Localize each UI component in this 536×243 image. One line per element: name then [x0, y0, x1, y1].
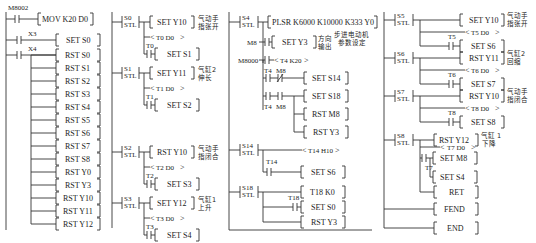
- compare-close: >: [495, 28, 500, 37]
- column-4: S5 STL SET Y10 气动手 指张开 < T5 D0 > T5 SET …: [384, 11, 528, 234]
- instruction: END: [447, 224, 464, 233]
- instruction: RET: [449, 188, 464, 197]
- rung-mov: M8002 MOV K20 D0: [6, 4, 93, 25]
- instruction: SET Y10: [469, 16, 499, 25]
- comment: 气缸2: [507, 49, 525, 58]
- instruction: SET Y3: [282, 38, 308, 47]
- rung-reset-all: X4: [6, 45, 56, 224]
- rung-fend: FEND: [384, 203, 478, 215]
- comment: 指张开: [507, 19, 528, 28]
- comment: 气动手: [507, 87, 528, 96]
- contact-label: T18: [288, 194, 300, 202]
- instruction: SET S1: [167, 50, 192, 59]
- instruction: SET S4: [167, 231, 192, 240]
- stl-label: STL: [397, 57, 409, 65]
- instruction: RST Y11: [469, 54, 499, 63]
- stl-label: STL: [397, 95, 409, 103]
- rung-end: END: [384, 222, 478, 234]
- timer-instruction: T3 D0: [156, 215, 175, 223]
- compare-open: <: [150, 214, 155, 223]
- instruction: SET S8: [471, 118, 496, 127]
- comment: 气缸1: [198, 195, 216, 204]
- contact-label: M8000: [238, 57, 259, 65]
- instruction: RST Y3: [311, 218, 337, 227]
- step-s1: S1 STL SET Y11 气缸2 伸长 < T1 D0 > T1 SET S…: [112, 65, 216, 111]
- instruction: RST Y10: [63, 194, 93, 203]
- step-s7: S7 STL RST Y10 气动手 指闭合 < T8 D0 > T8 SET …: [384, 87, 528, 128]
- stl-label: STL: [124, 151, 136, 159]
- compare-open: <: [150, 33, 155, 42]
- comment: 输出: [318, 42, 332, 51]
- compare-open: <: [465, 28, 470, 37]
- comment: 气缸2: [198, 65, 216, 74]
- plsr-instruction: PLSR K6000 K10000 K333 Y0: [272, 18, 374, 27]
- timer-instruction: T0 D0: [156, 34, 175, 42]
- step-s14: S14 STL < T14 H10 > T14 SET S6: [229, 142, 345, 178]
- compare-open: <: [302, 146, 307, 155]
- stl-label: STL: [397, 139, 409, 147]
- comment: 气动手: [507, 11, 528, 20]
- instruction: SET S2: [167, 101, 192, 110]
- comment: 步进电动机: [334, 30, 369, 39]
- instruction: RST S0: [65, 51, 90, 60]
- stl-label: STL: [124, 21, 136, 29]
- stl-label: STL: [124, 202, 136, 210]
- contact-label: T3: [146, 223, 154, 231]
- timer-instruction: T7 D0: [447, 144, 466, 152]
- step-s4: S4 STL PLSR K6000 K10000 K333 Y0 M8 SET …: [229, 14, 377, 138]
- instruction: SET S6: [471, 42, 496, 51]
- step-s2: S2 STL RST Y10 气动手 指闭合 < T2 D0 > T2 SET …: [112, 144, 219, 190]
- instruction: SET Y11: [157, 69, 186, 78]
- step-s0: S0 STL SET Y10 气动手 指张开 < T0 D0 > T0 SET …: [112, 14, 219, 60]
- contact-label: X4: [28, 45, 37, 53]
- compare-close: >: [495, 104, 500, 113]
- contact-label: T7: [425, 164, 433, 172]
- compare-close: >: [180, 163, 185, 172]
- contact-label: M8002: [8, 4, 29, 12]
- compare-close: >: [304, 56, 309, 65]
- contact-label: T14: [266, 158, 278, 166]
- instruction: SET S0: [66, 36, 91, 45]
- contact-label: T2: [146, 172, 154, 180]
- compare-close: >: [180, 33, 185, 42]
- stl-label: STL: [242, 149, 254, 157]
- contact-label: T0: [146, 42, 154, 50]
- instruction: SET S4: [440, 173, 465, 182]
- timer-instruction: T1 D0: [156, 85, 175, 93]
- timer-instruction: T4 K20: [280, 57, 302, 65]
- comment: 气动手: [198, 144, 219, 153]
- instruction: RST Y0: [65, 168, 91, 177]
- timer-instruction: T5 D0: [471, 29, 490, 37]
- instruction: RST Y3: [313, 128, 339, 137]
- contact-label: M8: [247, 39, 257, 47]
- compare-open: <: [150, 84, 155, 93]
- instruction: RST S3: [65, 90, 90, 99]
- column-2: S0 STL SET Y10 气动手 指张开 < T0 D0 > T0 SET …: [112, 12, 219, 241]
- instruction: SET M8: [440, 154, 467, 163]
- contact-label: T8: [448, 109, 456, 117]
- instruction: RST S7: [65, 142, 90, 151]
- instruction: RST Y10: [157, 148, 187, 157]
- comment: 回缩: [507, 57, 521, 66]
- compare-close: >: [335, 146, 340, 155]
- contact-label: T4: [264, 103, 272, 111]
- stl-label: STL: [242, 21, 254, 29]
- instruction: RST S4: [65, 103, 90, 112]
- comment: 参数设定: [338, 38, 366, 47]
- compare-close: >: [180, 84, 185, 93]
- stl-label: STL: [124, 72, 136, 80]
- compare-close: >: [495, 66, 500, 75]
- instruction: RST S5: [65, 116, 90, 125]
- comment: 下降: [482, 139, 496, 148]
- comment: 指闭合: [507, 95, 528, 104]
- step-s5: S5 STL SET Y10 气动手 指张开 < T5 D0 > T5 SET …: [384, 11, 528, 52]
- column-3: S4 STL PLSR K6000 K10000 K333 Y0 M8 SET …: [229, 12, 377, 230]
- timer-instruction: T6 D0: [471, 67, 490, 75]
- instruction: SET S3: [167, 180, 192, 189]
- step-s8: S8 STL RST Y12 气缸 1 下降 < T7 D0 > T7 SET …: [384, 131, 501, 198]
- compare-close: >: [471, 143, 476, 152]
- instruction: RST S8: [65, 155, 90, 164]
- contact-label: T4: [264, 67, 272, 75]
- instruction: SET S6: [311, 168, 336, 177]
- contact-label: M8: [276, 67, 286, 75]
